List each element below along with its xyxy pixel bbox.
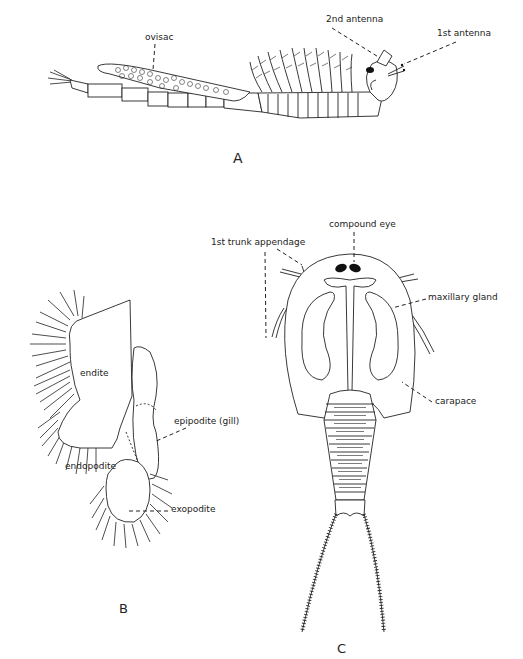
- trunk: [324, 390, 376, 516]
- thorax: [258, 92, 382, 118]
- epipodite-shape: [132, 347, 159, 479]
- tail-bristles-icon: [48, 70, 72, 84]
- label-first-trunk-appendage: 1st trunk appendage: [211, 237, 305, 247]
- trunk-appendage-leader-2: [265, 252, 266, 338]
- thoracic-appendages: [250, 48, 352, 92]
- label-exopodite: exopodite: [171, 504, 215, 514]
- figure-label-b: B: [119, 601, 128, 616]
- epipodite-leader: [154, 428, 186, 442]
- label-carapace: carapace: [435, 396, 476, 406]
- label-second-antenna: 2nd antenna: [326, 14, 383, 24]
- label-endite: endite: [80, 368, 109, 378]
- label-epipodite: epipodite (gill): [174, 416, 239, 426]
- label-compound-eye: compound eye: [329, 219, 396, 229]
- ovisac-leader: [153, 44, 155, 70]
- label-first-antenna: 1st antenna: [437, 28, 491, 38]
- label-ovisac: ovisac: [145, 32, 174, 42]
- head: [366, 50, 405, 101]
- label-endopodite: endopodite: [65, 461, 116, 471]
- figure-label-a: A: [233, 150, 243, 166]
- figure-b: [30, 290, 186, 548]
- figure-c: [265, 232, 434, 632]
- caudal-rami: [302, 514, 384, 632]
- second-antenna-leader: [332, 28, 380, 58]
- figure-a: [48, 28, 456, 118]
- figure-label-c: C: [337, 641, 346, 656]
- trunk-appendage-leader-1: [277, 249, 302, 265]
- eye-icon: [366, 67, 374, 73]
- label-maxillary-gland: maxillary gland: [428, 292, 498, 302]
- first-antenna-leader: [404, 42, 456, 64]
